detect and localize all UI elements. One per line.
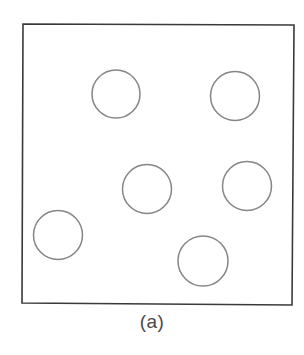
circle-3 (123, 165, 172, 214)
circle-2 (211, 72, 260, 121)
circle-1 (92, 70, 140, 118)
circles-group (34, 70, 272, 286)
figure-caption: (a) (0, 311, 304, 333)
circle-6 (178, 236, 228, 286)
circle-4 (223, 162, 272, 211)
figure-canvas (0, 0, 304, 355)
frame-box (22, 24, 294, 305)
circle-5 (34, 211, 83, 260)
